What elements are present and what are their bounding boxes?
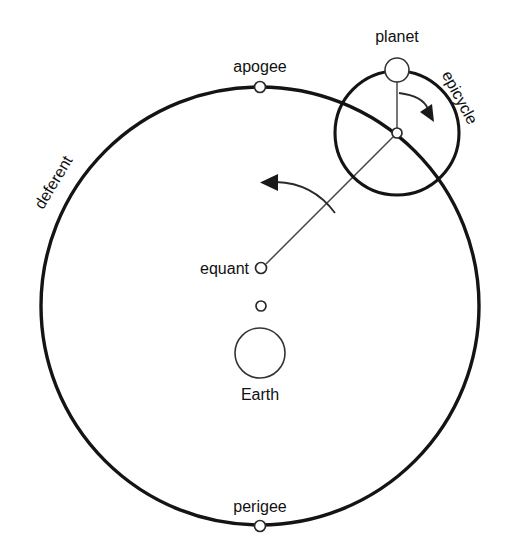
label-equant: equant xyxy=(200,260,249,277)
label-epicycle: epicycle xyxy=(439,68,481,127)
ptolemaic-diagram: planet epicycle apogee deferent equant E… xyxy=(0,0,509,555)
deferent-center-marker xyxy=(256,301,266,311)
equant-to-epicycle-line xyxy=(266,137,393,264)
epicycle-center-marker xyxy=(392,128,402,138)
label-perigee: perigee xyxy=(233,498,286,515)
apogee-marker xyxy=(255,82,266,93)
epicycle-motion-arrow xyxy=(399,93,434,122)
label-planet: planet xyxy=(375,28,419,45)
earth-circle xyxy=(235,328,285,378)
label-deferent: deferent xyxy=(31,152,76,212)
label-apogee: apogee xyxy=(233,58,286,75)
planet-circle xyxy=(385,58,409,82)
perigee-marker xyxy=(255,521,266,532)
diagram-canvas: planet epicycle apogee deferent equant E… xyxy=(0,0,509,555)
equant-marker xyxy=(256,263,267,274)
label-earth: Earth xyxy=(241,386,279,403)
